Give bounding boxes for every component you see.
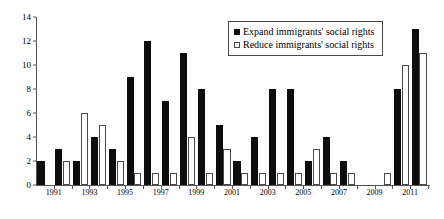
bar-1995-reduce bbox=[117, 161, 124, 185]
x-axis-tick-label: 2011 bbox=[402, 188, 418, 197]
bar-1996-expand bbox=[127, 77, 134, 185]
bar-1993-reduce bbox=[81, 113, 88, 185]
x-axis-tick-label: 2009 bbox=[367, 188, 383, 197]
bar-2012-reduce bbox=[419, 53, 426, 185]
bar-2002-reduce bbox=[241, 173, 248, 185]
x-axis-tick-label: 1999 bbox=[188, 188, 204, 197]
legend-item-expand: Expand immigrants' social rights bbox=[234, 25, 375, 38]
x-axis-tick-label: 1997 bbox=[153, 188, 169, 197]
bar-2007-expand bbox=[323, 137, 330, 185]
bar-2000-reduce bbox=[206, 173, 213, 185]
y-axis-tick-label: 14 bbox=[22, 13, 31, 22]
bar-1996-reduce bbox=[134, 173, 141, 185]
bar-2007-reduce bbox=[330, 173, 337, 185]
y-axis-tick-label: 6 bbox=[27, 109, 32, 118]
legend-swatch-outlined-square-icon bbox=[234, 42, 240, 48]
y-axis-tick-label: 0 bbox=[27, 181, 32, 190]
bar-2005-expand bbox=[287, 89, 294, 185]
bar-1995-expand bbox=[109, 149, 116, 185]
legend-swatch-filled-square-icon bbox=[234, 29, 240, 35]
x-axis-tick-mark bbox=[428, 185, 429, 189]
bar-2002-expand bbox=[233, 161, 240, 185]
x-axis-tick-mark bbox=[250, 185, 251, 189]
x-axis-tick-label: 1993 bbox=[81, 188, 97, 197]
x-axis-tick-label: 1991 bbox=[46, 188, 62, 197]
y-axis-tick-label: 12 bbox=[22, 37, 31, 46]
y-axis-tick-label: 8 bbox=[27, 85, 32, 94]
bar-1999-expand bbox=[180, 53, 187, 185]
bar-2001-expand bbox=[216, 125, 223, 185]
bar-1992-reduce bbox=[63, 161, 70, 185]
bar-2004-expand bbox=[269, 89, 276, 185]
bar-2010-reduce bbox=[384, 173, 391, 185]
x-axis-tick-mark bbox=[392, 185, 393, 189]
y-axis-tick-mark bbox=[33, 41, 36, 42]
bar-1998-expand bbox=[162, 101, 169, 185]
y-axis-tick-mark bbox=[33, 65, 36, 66]
y-axis-tick-label: 2 bbox=[27, 157, 32, 166]
x-axis-tick-label: 2003 bbox=[260, 188, 276, 197]
y-axis-tick-mark bbox=[33, 137, 36, 138]
y-axis-tick-mark bbox=[33, 17, 36, 18]
bar-1998-reduce bbox=[170, 173, 177, 185]
x-axis-tick-mark bbox=[285, 185, 286, 189]
bar-2001-reduce bbox=[223, 149, 230, 185]
x-axis-tick-mark bbox=[321, 185, 322, 189]
chart-legend: Expand immigrants' social rights Reduce … bbox=[228, 21, 383, 56]
legend-item-reduce: Reduce immigrants' social rights bbox=[234, 38, 375, 51]
bar-1999-reduce bbox=[188, 137, 195, 185]
x-axis-tick-label: 2001 bbox=[224, 188, 240, 197]
x-axis-tick-mark bbox=[214, 185, 215, 189]
y-axis-tick-mark bbox=[33, 113, 36, 114]
bar-1997-reduce bbox=[152, 173, 159, 185]
bar-2005-reduce bbox=[295, 173, 302, 185]
x-axis-tick-label: 2007 bbox=[331, 188, 347, 197]
x-axis-tick-mark bbox=[357, 185, 358, 189]
y-axis-tick-mark bbox=[33, 185, 36, 186]
bar-1994-reduce bbox=[99, 125, 106, 185]
bar-2004-reduce bbox=[277, 173, 284, 185]
bar-2003-expand bbox=[251, 137, 258, 185]
bar-1994-expand bbox=[91, 137, 98, 185]
bar-2008-expand bbox=[340, 161, 347, 185]
bar-1997-expand bbox=[144, 41, 151, 185]
x-axis-tick-label: 1995 bbox=[117, 188, 133, 197]
x-axis-tick-label: 2005 bbox=[295, 188, 311, 197]
bar-2011-expand bbox=[394, 89, 401, 185]
x-axis-tick-mark bbox=[179, 185, 180, 189]
bar-2003-reduce bbox=[259, 173, 266, 185]
y-axis-tick-label: 4 bbox=[27, 133, 32, 142]
bar-1992-expand bbox=[55, 149, 62, 185]
y-axis-tick-mark bbox=[33, 89, 36, 90]
x-axis-tick-mark bbox=[143, 185, 144, 189]
bar-2006-expand bbox=[305, 161, 312, 185]
bar-2000-expand bbox=[198, 89, 205, 185]
bar-2011-reduce bbox=[402, 65, 409, 185]
bar-2012-expand bbox=[412, 29, 419, 185]
bar-2008-reduce bbox=[348, 173, 355, 185]
x-axis-line bbox=[36, 185, 430, 186]
legend-label-reduce: Reduce immigrants' social rights bbox=[243, 39, 374, 50]
bar-1991-expand bbox=[37, 161, 44, 185]
x-axis-tick-mark bbox=[107, 185, 108, 189]
y-axis-tick-mark bbox=[33, 161, 36, 162]
y-axis-tick-label: 10 bbox=[22, 61, 31, 70]
x-axis-tick-mark bbox=[72, 185, 73, 189]
bar-chart: 02468101214 Expand immigrants' social ri… bbox=[0, 0, 444, 219]
bar-2006-reduce bbox=[313, 149, 320, 185]
bar-1993-expand bbox=[73, 161, 80, 185]
legend-label-expand: Expand immigrants' social rights bbox=[243, 26, 375, 37]
